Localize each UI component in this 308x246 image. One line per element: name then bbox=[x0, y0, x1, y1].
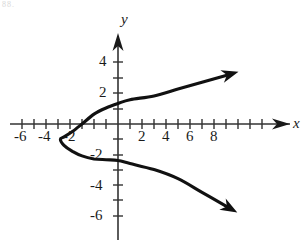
y-tick-label-neg2: -2 bbox=[90, 147, 103, 162]
y-tick-label-neg4: -4 bbox=[90, 178, 103, 193]
x-axis-label: x bbox=[293, 116, 300, 131]
x-tick-label-6: 6 bbox=[186, 129, 194, 144]
y-tick-label-2: 2 bbox=[99, 85, 107, 100]
y-tick-label-4: 4 bbox=[99, 54, 107, 69]
y-tick-label-neg6: -6 bbox=[90, 208, 103, 223]
x-tick-label-8: 8 bbox=[210, 129, 218, 144]
x-tick-label-neg4: -4 bbox=[38, 129, 51, 144]
y-axis-label: y bbox=[121, 12, 128, 27]
x-tick-label-neg2: -2 bbox=[63, 129, 76, 144]
x-tick-label-neg6: -6 bbox=[14, 129, 27, 144]
coordinate-plane bbox=[0, 0, 308, 246]
x-tick-label-2: 2 bbox=[138, 129, 146, 144]
x-tick-label-4: 4 bbox=[162, 129, 170, 144]
axes-group bbox=[10, 33, 290, 240]
graph-figure: 88. bbox=[0, 0, 308, 246]
